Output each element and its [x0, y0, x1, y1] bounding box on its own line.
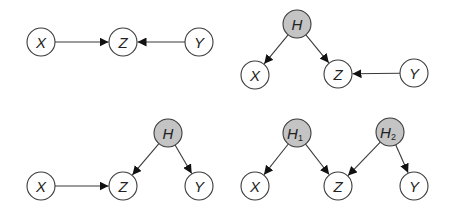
arrow-edge-h2-to-y	[396, 145, 408, 173]
node-subscript: 2	[391, 132, 396, 142]
node-x-observed: X	[27, 172, 55, 200]
node-y-observed: Y	[400, 59, 428, 87]
diagram-panels: XZYHXZYHXZYH1H2XZY	[27, 10, 428, 200]
node-label: H	[292, 16, 303, 33]
node-label: H	[163, 125, 174, 142]
node-h1-hidden: H1	[283, 119, 311, 147]
arrow-edge-h-to-y	[175, 145, 192, 173]
node-y-observed: Y	[185, 172, 213, 200]
panel-top-left: XZY	[27, 28, 213, 56]
arrow-edge-y-to-z	[352, 73, 400, 74]
arrow-edge-h1-to-z	[306, 144, 330, 174]
arrow-edge-h2-to-z	[348, 142, 380, 175]
arrow-edge-h-to-x	[264, 35, 288, 64]
node-z-observed: Z	[109, 28, 137, 56]
node-label: X	[35, 178, 47, 195]
panel-bottom-left: HXZY	[27, 119, 213, 200]
node-label: X	[249, 178, 261, 195]
node-y-observed: Y	[400, 172, 428, 200]
node-label: Z	[332, 178, 343, 195]
arrow-edge-h1-to-x	[264, 144, 288, 175]
node-h2-hidden: H2	[376, 118, 404, 146]
node-label: X	[249, 67, 261, 84]
node-h-hidden: H	[154, 119, 182, 147]
node-z-observed: Z	[324, 60, 352, 88]
arrow-edge-h-to-z	[132, 144, 159, 175]
node-x-observed: X	[241, 61, 269, 89]
panel-bottom-right: H1H2XZY	[241, 118, 428, 200]
node-label: Y	[409, 65, 420, 82]
node-label: Y	[194, 178, 205, 195]
node-y-observed: Y	[185, 28, 213, 56]
node-label: X	[35, 34, 47, 51]
node-subscript: 1	[298, 133, 303, 143]
node-label: Y	[194, 34, 205, 51]
node-z-observed: Z	[109, 172, 137, 200]
panel-top-right: HXZY	[241, 10, 428, 89]
arrow-edge-h-to-z	[306, 35, 329, 63]
node-x-observed: X	[27, 28, 55, 56]
node-z-observed: Z	[324, 172, 352, 200]
node-h-hidden: H	[283, 10, 311, 38]
node-label: Z	[332, 66, 343, 83]
node-label: Y	[409, 178, 420, 195]
node-x-observed: X	[241, 172, 269, 200]
node-label: Z	[117, 178, 128, 195]
node-label: Z	[117, 34, 128, 51]
causal-dag-figure: XZYHXZYHXZYH1H2XZY	[0, 0, 453, 215]
